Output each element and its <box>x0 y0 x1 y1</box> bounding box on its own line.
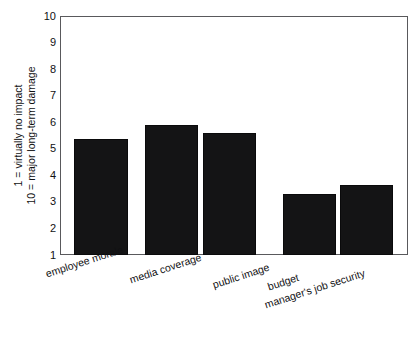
y-axis-tick-label: 1 <box>50 250 60 261</box>
bars-layer <box>60 16 408 255</box>
y-axis-tick-label: 8 <box>50 64 60 75</box>
y-axis-tick-label: 3 <box>50 196 60 207</box>
bar-chart: 10 = major long-term damage 1 = virtuall… <box>0 0 418 339</box>
y-axis-tick-label: 4 <box>50 170 60 181</box>
y-axis-tick-label: 6 <box>50 117 60 128</box>
y-axis-tick-label: 7 <box>50 90 60 101</box>
bar[interactable] <box>203 133 256 255</box>
y-axis-tick-label: 10 <box>44 11 60 22</box>
bar[interactable] <box>145 125 198 255</box>
x-axis-tick-label: public image <box>211 261 271 291</box>
bar[interactable] <box>74 139 128 255</box>
y-axis: 12345678910 <box>0 0 60 339</box>
bar[interactable] <box>340 185 393 255</box>
bar[interactable] <box>283 194 336 255</box>
x-axis-tick-label: media coverage <box>128 251 203 286</box>
y-axis-tick-label: 2 <box>50 223 60 234</box>
y-axis-tick-label: 5 <box>50 143 60 154</box>
y-axis-tick-label: 9 <box>50 37 60 48</box>
